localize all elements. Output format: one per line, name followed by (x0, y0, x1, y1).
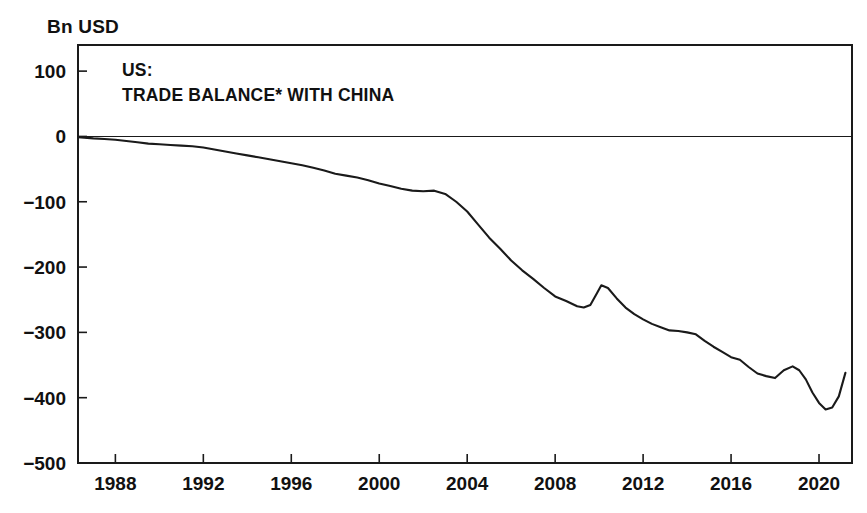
y-tick-label: −400 (23, 388, 66, 409)
x-tick-label: 1992 (182, 473, 224, 494)
chart-figure: Bn USD US: TRADE BALANCE* WITH CHINA 100… (0, 0, 867, 513)
x-tick-label: 2000 (358, 473, 400, 494)
x-tick-label: 2016 (710, 473, 752, 494)
x-tick-label: 2004 (446, 473, 489, 494)
x-tick-label: 2008 (534, 473, 576, 494)
y-tick-label: 0 (55, 126, 66, 147)
y-tick-label: 100 (34, 61, 66, 82)
x-tick-label: 1988 (94, 473, 136, 494)
y-tick-label: −100 (23, 192, 66, 213)
x-tick-label: 2012 (622, 473, 664, 494)
plot-frame (78, 45, 852, 463)
data-series-line (78, 137, 845, 409)
x-tick-label: 2020 (798, 473, 840, 494)
y-tick-label: −300 (23, 322, 66, 343)
x-axis-ticks: 198819921996200020042008201220162020 (94, 454, 840, 494)
y-tick-label: −500 (23, 453, 66, 474)
y-tick-label: −200 (23, 257, 66, 278)
plot-area: 1000−100−200−300−400−500 198819921996200… (0, 0, 867, 513)
x-tick-label: 1996 (270, 473, 312, 494)
